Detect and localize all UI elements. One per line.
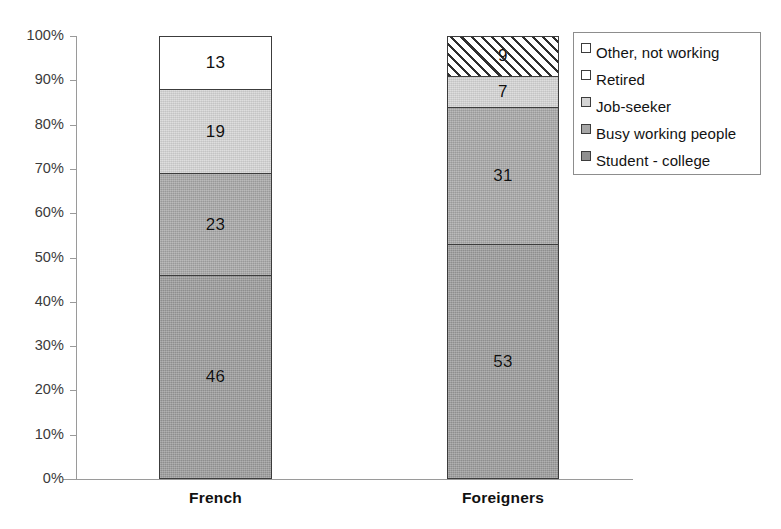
y-tick-mark bbox=[70, 80, 76, 81]
segment-value: 23 bbox=[206, 215, 226, 235]
category-label-french: French bbox=[159, 489, 272, 507]
legend-label: Job-seeker bbox=[596, 99, 671, 114]
segment-french-busy-working[interactable]: 23 bbox=[159, 173, 272, 275]
segment-foreigners-student[interactable]: 53 bbox=[447, 244, 559, 479]
segment-value: 9 bbox=[498, 46, 508, 66]
legend-swatch-icon bbox=[581, 70, 591, 80]
y-tick-mark bbox=[70, 346, 76, 347]
y-tick-label: 40% bbox=[35, 293, 64, 309]
y-tick-label: 90% bbox=[35, 71, 64, 87]
bar-french[interactable]: 46 23 19 13 bbox=[159, 36, 272, 479]
segment-value: 7 bbox=[498, 82, 508, 102]
plot-area: 100% 90% 80% 70% 60% 50% 40% 30% bbox=[76, 36, 570, 479]
category-label-foreigners: Foreigners bbox=[447, 489, 559, 507]
legend-item-busy-working-people[interactable]: Busy working people bbox=[581, 120, 754, 147]
segment-value: 31 bbox=[493, 166, 513, 186]
y-tick-label: 0% bbox=[43, 470, 64, 486]
legend: Other, not working Retired Job-seeker Bu… bbox=[573, 32, 761, 175]
y-tick-label: 30% bbox=[35, 337, 64, 353]
segment-foreigners-busy-working[interactable]: 31 bbox=[447, 107, 559, 244]
stacked-bar-chart: 100% 90% 80% 70% 60% 50% 40% 30% bbox=[0, 0, 781, 529]
y-tick-mark bbox=[70, 125, 76, 126]
legend-swatch-icon bbox=[581, 43, 591, 53]
y-tick-mark bbox=[70, 258, 76, 259]
segment-value: 46 bbox=[206, 367, 226, 387]
segment-french-student[interactable]: 46 bbox=[159, 275, 272, 479]
legend-item-retired[interactable]: Retired bbox=[581, 66, 754, 93]
y-tick-mark bbox=[70, 36, 76, 37]
y-tick-mark bbox=[70, 479, 76, 480]
legend-label: Student - college bbox=[596, 153, 710, 168]
y-tick-label: 20% bbox=[35, 381, 64, 397]
segment-french-retired[interactable]: 13 bbox=[159, 36, 272, 89]
legend-item-other-not-working[interactable]: Other, not working bbox=[581, 39, 754, 66]
segment-foreigners-other-not-working[interactable]: 9 bbox=[447, 36, 559, 76]
y-tick-label: 70% bbox=[35, 160, 64, 176]
legend-label: Other, not working bbox=[596, 45, 720, 60]
segment-value: 53 bbox=[493, 352, 513, 372]
y-tick-mark bbox=[70, 302, 76, 303]
legend-swatch-icon bbox=[581, 151, 591, 161]
y-tick-mark bbox=[70, 169, 76, 170]
x-axis-line bbox=[63, 479, 633, 480]
y-tick-label: 10% bbox=[35, 426, 64, 442]
legend-item-student-college[interactable]: Student - college bbox=[581, 147, 754, 174]
y-tick-label: 80% bbox=[35, 116, 64, 132]
legend-item-job-seeker[interactable]: Job-seeker bbox=[581, 93, 754, 120]
legend-swatch-icon bbox=[581, 97, 591, 107]
y-tick-mark bbox=[70, 213, 76, 214]
segment-value: 13 bbox=[206, 53, 226, 73]
y-tick-mark bbox=[70, 435, 76, 436]
legend-label: Retired bbox=[596, 72, 645, 87]
segment-french-job-seeker[interactable]: 19 bbox=[159, 89, 272, 173]
y-tick-label: 60% bbox=[35, 204, 64, 220]
segment-foreigners-job-seeker[interactable]: 7 bbox=[447, 76, 559, 107]
segment-value: 19 bbox=[206, 122, 226, 142]
legend-swatch-icon bbox=[581, 124, 591, 134]
legend-label: Busy working people bbox=[596, 126, 736, 141]
y-tick-label: 100% bbox=[27, 27, 65, 43]
y-tick-label: 50% bbox=[35, 249, 64, 265]
y-tick-mark bbox=[70, 390, 76, 391]
bar-foreigners[interactable]: 53 31 7 9 bbox=[447, 36, 559, 479]
